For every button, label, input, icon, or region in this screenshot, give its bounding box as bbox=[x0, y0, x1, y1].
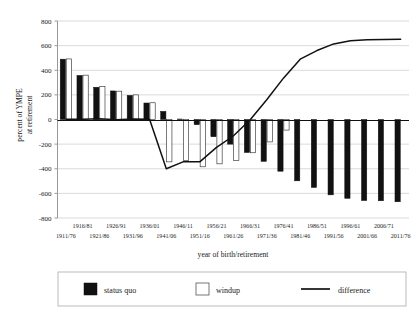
x-axis-title: year of birth/retirement bbox=[198, 250, 270, 259]
x-axis-tick-label: 2006/71 bbox=[374, 223, 394, 229]
bar-status-quo bbox=[228, 120, 233, 145]
bar-windup bbox=[267, 120, 272, 142]
x-axis-tick-label: 1976/41 bbox=[273, 223, 293, 229]
y-axis-title-line2: at retirement bbox=[25, 95, 34, 134]
bar-status-quo bbox=[395, 120, 400, 202]
x-axis-tick-label: 1951/16 bbox=[190, 233, 210, 239]
x-axis-tick-label: 1926/91 bbox=[106, 223, 126, 229]
bar-status-quo bbox=[60, 59, 65, 119]
bar-windup bbox=[116, 91, 121, 119]
legend-label-status-quo: status quo bbox=[104, 286, 136, 295]
x-axis-tick-label: 1946/11 bbox=[173, 223, 193, 229]
x-axis-tick-label: 1986/51 bbox=[307, 223, 327, 229]
y-axis-tick-label: -400 bbox=[39, 165, 52, 173]
difference-line bbox=[66, 39, 401, 169]
bar-windup bbox=[217, 120, 222, 164]
bar-status-quo bbox=[161, 111, 166, 119]
bar-status-quo bbox=[311, 120, 316, 188]
bar-windup bbox=[83, 75, 88, 119]
bar-status-quo bbox=[278, 120, 283, 172]
legend: status quo windup difference bbox=[58, 272, 406, 306]
x-axis-tick-label: 1916/81 bbox=[73, 223, 93, 229]
bar-status-quo bbox=[110, 91, 115, 120]
y-axis-tick-label: -800 bbox=[39, 215, 52, 223]
x-axis-tick-label: 2001/66 bbox=[357, 233, 377, 239]
x-axis-tick-label: 1971/36 bbox=[257, 233, 277, 239]
bar-status-quo bbox=[144, 103, 149, 120]
bars-group bbox=[60, 59, 400, 202]
x-axis-tick-labels: 1911/761916/811921/861926/911931/961936/… bbox=[56, 223, 411, 239]
bar-windup bbox=[150, 103, 155, 120]
x-axis-tick-label: 1966/31 bbox=[240, 223, 260, 229]
bar-windup bbox=[133, 95, 138, 120]
bar-status-quo bbox=[345, 120, 350, 199]
y-axis-tick-label: 600 bbox=[41, 42, 52, 50]
bar-status-quo bbox=[328, 120, 333, 195]
bar-windup bbox=[167, 120, 172, 162]
x-axis-tick-label: 1931/96 bbox=[123, 233, 143, 239]
chart-container: percent of YMPE at retirement 8006004002… bbox=[0, 0, 417, 319]
bar-windup bbox=[250, 120, 255, 153]
ympe-retirement-chart: percent of YMPE at retirement 8006004002… bbox=[0, 0, 417, 319]
y-axis-tick-label: 0 bbox=[48, 116, 52, 124]
y-axis-title: percent of YMPE at retirement bbox=[15, 88, 34, 142]
bar-windup bbox=[284, 120, 289, 131]
x-axis-tick-label: 1996/61 bbox=[340, 223, 360, 229]
y-axis-tick-label: -600 bbox=[39, 190, 52, 198]
bar-status-quo bbox=[177, 119, 182, 120]
bar-windup bbox=[234, 120, 239, 161]
y-axis-tick-label: 400 bbox=[41, 67, 52, 75]
bar-windup bbox=[66, 59, 71, 120]
bar-status-quo bbox=[261, 120, 266, 162]
y-axis-tick-label: 800 bbox=[41, 18, 52, 26]
y-axis-tick-label: 200 bbox=[41, 91, 52, 99]
x-axis-tick-label: 2011/76 bbox=[391, 233, 411, 239]
legend-label-windup: windup bbox=[216, 286, 240, 295]
x-axis-tick-label: 1981/46 bbox=[290, 233, 310, 239]
y-axis-tick-label: -200 bbox=[39, 141, 52, 149]
bar-status-quo bbox=[295, 120, 300, 181]
bar-windup bbox=[183, 120, 188, 161]
bar-status-quo bbox=[94, 87, 99, 119]
bar-status-quo bbox=[362, 120, 367, 201]
x-axis-tick-label: 1941/06 bbox=[156, 233, 176, 239]
bar-status-quo bbox=[77, 75, 82, 119]
legend-label-difference: difference bbox=[338, 286, 371, 295]
y-axis-tick-labels: 8006004002000-200-400-600-800 bbox=[39, 18, 58, 223]
x-axis-tick-label: 1956/21 bbox=[207, 223, 227, 229]
bar-status-quo bbox=[211, 120, 216, 137]
legend-swatch-status-quo bbox=[84, 283, 97, 295]
legend-swatch-windup bbox=[196, 283, 209, 295]
x-axis-tick-label: 1991/56 bbox=[324, 233, 344, 239]
y-axis-title-line1: percent of YMPE bbox=[15, 88, 24, 142]
bar-windup bbox=[100, 87, 105, 120]
x-axis-tick-label: 1921/86 bbox=[89, 233, 109, 239]
x-axis-tick-label: 1961/26 bbox=[223, 233, 243, 239]
bar-status-quo bbox=[127, 95, 132, 119]
bar-status-quo bbox=[378, 120, 383, 201]
x-axis-tick-label: 1911/76 bbox=[56, 233, 76, 239]
x-axis-tick-label: 1936/01 bbox=[140, 223, 160, 229]
